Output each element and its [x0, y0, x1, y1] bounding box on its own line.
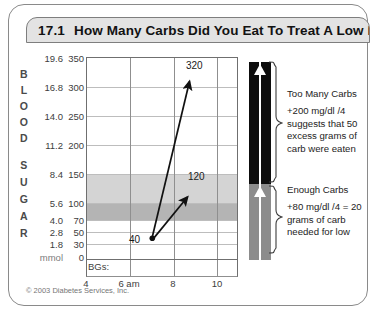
data-label-320: 320: [186, 60, 203, 71]
mgdl-tick: 30: [59, 239, 84, 250]
y-axis-letter: R: [17, 227, 31, 239]
mgdl-tick: 100: [59, 198, 84, 209]
annotation-too-many-body: +200 mg/dl /4 suggests that 50 excess gr…: [287, 105, 357, 153]
y-axis-letter: A: [17, 210, 31, 222]
y-axis-letter: B: [17, 68, 31, 80]
x-tick-10: 10: [204, 278, 230, 289]
brace-too-many: [269, 62, 282, 182]
mgdl-tick: 0: [59, 252, 84, 263]
annotation-too-many-carbs: Too Many Carbs +200 mg/dl /4 suggests th…: [287, 88, 371, 155]
brace-enough: [269, 186, 282, 253]
mmol-unit-label: mmol: [29, 252, 63, 263]
page-title: How Many Carbs Did You Eat To Treat A Lo…: [74, 23, 370, 38]
up-arrow-icon: [253, 186, 267, 198]
y-axis-letter: O: [17, 100, 31, 112]
data-label-40: 40: [129, 234, 140, 245]
mgdl-tick: 300: [59, 82, 84, 93]
mgdl-tick: 70: [59, 215, 84, 226]
arrow-to-320: [152, 82, 189, 238]
mgdl-tick: 50: [59, 227, 84, 238]
mgdl-tick: 200: [59, 140, 84, 151]
gridline-v: [130, 260, 131, 276]
mgdl-tick: 350: [59, 53, 84, 64]
mgdl-tick: 150: [59, 169, 84, 180]
y-axis-letter: U: [17, 176, 31, 188]
annotation-too-many-heading: Too Many Carbs: [287, 88, 371, 100]
arrow-to-120: [153, 197, 187, 239]
copyright-notice: © 2003 Diabetes Services, Inc.: [26, 286, 129, 295]
annotation-enough-carbs: Enough Carbs +80 mg/dl /4 = 20 grams of …: [287, 184, 371, 239]
data-arrows: [87, 58, 238, 260]
mgdl-tick: 250: [59, 111, 84, 122]
bgs-label: BGs:: [88, 261, 109, 272]
y-axis-letter: S: [17, 159, 31, 171]
gridline-v: [174, 260, 175, 276]
x-tick-8: 8: [160, 278, 186, 289]
figure-number: 17.1: [38, 23, 65, 38]
plot-area: 320 120 40: [86, 57, 238, 260]
y-axis-letter: O: [17, 116, 31, 128]
data-label-120: 120: [188, 171, 205, 182]
card-header: 17.1 How Many Carbs Did You Eat To Treat…: [26, 17, 370, 43]
bar-stripe: [259, 62, 261, 184]
annotation-enough-body: +80 mg/dl /4 = 20 grams of carb needed f…: [287, 201, 362, 237]
y-axis-letter: D: [17, 132, 31, 144]
annotation-enough-heading: Enough Carbs: [287, 184, 371, 196]
y-axis-letter: L: [17, 84, 31, 96]
data-point-40: [150, 236, 156, 242]
up-arrow-icon: [253, 64, 267, 76]
gridline-v: [217, 260, 218, 276]
y-axis-letter: G: [17, 193, 31, 205]
